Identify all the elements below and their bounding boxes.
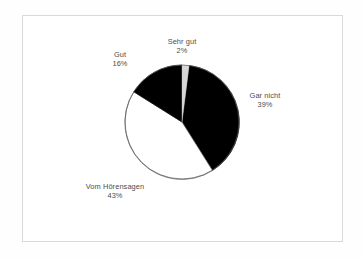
pie-label-gar-nicht-value: 39% [228, 100, 302, 109]
pie-chart-figure: Sehr gut 2% Gut 16% Gar nicht 39% Vom Hö… [0, 0, 363, 258]
pie-label-sehr-gut-name: Sehr gut [168, 37, 197, 46]
pie-label-vom-hoerensagen: Vom Hörensagen 43% [60, 182, 170, 200]
pie-label-vom-hoerensagen-value: 43% [60, 191, 170, 200]
pie-label-gut-value: 16% [92, 59, 148, 68]
pie-label-gar-nicht-name: Gar nicht [250, 91, 281, 100]
pie-label-sehr-gut-value: 2% [140, 46, 224, 55]
pie-label-gar-nicht: Gar nicht 39% [228, 91, 302, 109]
pie-label-gut-name: Gut [114, 50, 126, 59]
pie-label-vom-hoerensagen-name: Vom Hörensagen [86, 182, 145, 191]
pie-label-sehr-gut: Sehr gut 2% [140, 37, 224, 55]
pie-label-gut: Gut 16% [92, 50, 148, 68]
